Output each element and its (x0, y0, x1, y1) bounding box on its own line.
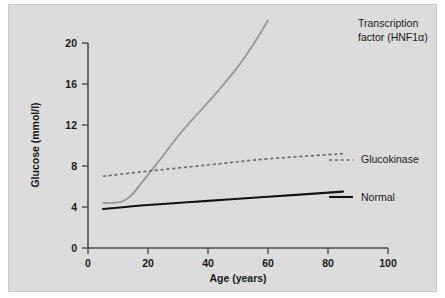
annotation-label-glucokinase: Glucokinase (361, 153, 419, 165)
series-layer (103, 20, 343, 209)
x-tick-label: 40 (202, 257, 214, 269)
y-tick-label: 20 (65, 37, 77, 49)
figure-panel: 048121620 020406080100 Glucose (mmol/l) … (8, 4, 437, 292)
glucose-vs-age-chart: 048121620 020406080100 Glucose (mmol/l) … (9, 5, 436, 291)
y-axis-title: Glucose (mmol/l) (29, 102, 41, 187)
x-axis-title: Age (years) (209, 272, 266, 284)
series-line-glucokinase (103, 154, 343, 177)
annotation-layer: Transcriptionfactor (HNF1α)GlucokinaseNo… (358, 17, 428, 203)
y-tick-label: 0 (71, 242, 77, 254)
annotation-label-normal: Normal (361, 191, 395, 203)
y-tick-label: 12 (65, 119, 77, 131)
y-axis-ticks: 048121620 (65, 37, 88, 254)
annotation-label-transcription: Transcriptionfactor (HNF1α) (358, 17, 428, 43)
x-tick-label: 100 (379, 257, 397, 269)
x-tick-label: 20 (142, 257, 154, 269)
series-line-normal (103, 192, 343, 209)
x-axis-ticks: 020406080100 (85, 248, 397, 269)
y-tick-label: 4 (71, 201, 77, 213)
x-tick-label: 60 (262, 257, 274, 269)
y-tick-label: 16 (65, 78, 77, 90)
series-line-transcription-factor-hnf1 (103, 20, 268, 203)
axes (88, 43, 388, 248)
y-tick-label: 8 (71, 160, 77, 172)
x-tick-label: 80 (322, 257, 334, 269)
x-tick-label: 0 (85, 257, 91, 269)
